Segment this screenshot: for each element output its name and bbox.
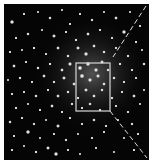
star xyxy=(132,94,136,98)
star xyxy=(60,110,63,113)
star xyxy=(95,147,98,150)
star xyxy=(84,52,89,57)
star xyxy=(77,65,82,70)
star xyxy=(50,104,54,108)
star xyxy=(72,82,76,86)
star xyxy=(106,68,110,72)
star xyxy=(26,130,31,135)
star xyxy=(90,18,93,21)
star xyxy=(139,103,142,106)
star xyxy=(112,76,116,80)
star xyxy=(79,13,82,16)
star xyxy=(56,124,60,128)
star xyxy=(62,76,66,80)
star xyxy=(39,137,42,140)
star xyxy=(102,50,106,54)
star xyxy=(48,62,51,65)
star xyxy=(100,88,104,92)
star xyxy=(114,16,118,20)
star xyxy=(52,132,55,135)
star xyxy=(56,94,60,98)
star xyxy=(132,148,135,151)
star xyxy=(46,146,50,150)
star xyxy=(41,29,44,32)
star xyxy=(110,96,113,99)
star xyxy=(92,94,96,98)
star xyxy=(138,24,141,27)
star xyxy=(44,52,47,55)
star xyxy=(21,117,24,120)
star xyxy=(80,106,83,109)
star xyxy=(12,64,16,68)
star xyxy=(10,148,13,151)
star xyxy=(10,20,15,25)
star xyxy=(42,74,46,78)
star xyxy=(70,102,73,105)
star xyxy=(52,80,55,83)
star xyxy=(60,68,64,72)
star xyxy=(74,38,77,41)
star xyxy=(45,119,48,122)
star xyxy=(76,96,79,99)
star xyxy=(79,73,84,78)
star xyxy=(113,151,116,154)
star xyxy=(134,40,137,43)
star xyxy=(48,16,52,20)
star xyxy=(38,108,41,111)
star xyxy=(92,44,96,48)
star xyxy=(136,132,139,135)
star xyxy=(92,118,96,122)
star xyxy=(141,49,144,52)
star xyxy=(64,30,67,33)
star xyxy=(15,37,18,40)
star xyxy=(88,102,92,106)
star xyxy=(8,50,11,53)
star xyxy=(68,62,72,66)
cluster-core-glow xyxy=(32,14,149,134)
star xyxy=(143,89,146,92)
star xyxy=(56,46,60,50)
star xyxy=(76,46,80,50)
star xyxy=(10,92,13,95)
star xyxy=(88,78,93,83)
star xyxy=(142,62,146,66)
star xyxy=(84,88,88,92)
star-cluster-image xyxy=(4,4,149,160)
star xyxy=(103,11,106,14)
star xyxy=(46,88,49,91)
star xyxy=(81,123,84,126)
star xyxy=(86,62,91,67)
star xyxy=(36,66,40,70)
star xyxy=(90,136,93,139)
star xyxy=(118,62,121,65)
star xyxy=(32,46,35,49)
star xyxy=(94,68,99,73)
star xyxy=(102,82,106,86)
star xyxy=(79,153,82,156)
star xyxy=(66,90,70,94)
star xyxy=(123,137,126,140)
star xyxy=(77,133,80,136)
star xyxy=(23,91,26,94)
star xyxy=(98,28,101,31)
star xyxy=(21,49,24,52)
star xyxy=(126,54,129,57)
star xyxy=(18,76,21,79)
star xyxy=(26,32,30,36)
star xyxy=(64,138,67,141)
star xyxy=(25,61,28,64)
star xyxy=(66,54,70,58)
star xyxy=(54,152,59,157)
star xyxy=(96,74,100,78)
star xyxy=(122,80,125,83)
star xyxy=(115,105,118,108)
star xyxy=(7,79,10,82)
star xyxy=(13,135,16,138)
star xyxy=(66,148,69,151)
star xyxy=(130,68,133,71)
star xyxy=(122,30,127,35)
star xyxy=(114,46,117,49)
star xyxy=(31,81,34,84)
star xyxy=(68,22,71,25)
star xyxy=(37,11,40,14)
